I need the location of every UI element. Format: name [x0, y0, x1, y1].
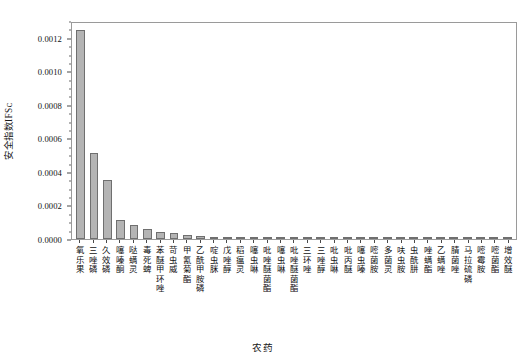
bar — [409, 237, 418, 239]
x-tick-mark — [468, 240, 469, 243]
x-tick-label: 久效磷 — [101, 246, 111, 320]
x-label-slot: 稻瘟灵 — [234, 246, 247, 320]
y-tick-label: 0.0012 — [38, 34, 62, 44]
x-tick-mark — [374, 240, 375, 243]
x-label-slot: 吡丙醚 — [341, 246, 354, 320]
x-label-slot: 啶虫脒 — [207, 246, 220, 320]
x-label-slot: 吡唑醚菌酯 — [287, 246, 300, 320]
x-tick-label: 乙螨唑 — [436, 246, 446, 320]
x-label-slot: 甲氰菊酯 — [180, 246, 193, 320]
bar-slot — [287, 23, 300, 239]
bar-slot — [154, 23, 167, 239]
bar — [489, 237, 498, 239]
bar — [369, 237, 378, 239]
x-tick-slot — [207, 240, 220, 244]
bar-slot — [101, 23, 114, 239]
x-tick-label: 噻虫嗪 — [356, 246, 366, 320]
bar-slot — [327, 23, 340, 239]
x-tick-label: 唑螨酯 — [423, 246, 433, 320]
x-tick-label: 吡唑醚菌酯 — [289, 246, 299, 320]
bar-slot — [221, 23, 234, 239]
bar — [76, 30, 85, 239]
x-tick-mark — [307, 240, 308, 243]
bar-slot — [407, 23, 420, 239]
bar-slot — [261, 23, 274, 239]
x-tick-label: 嘧菌胺 — [369, 246, 379, 320]
bar-slot — [141, 23, 154, 239]
x-tick-slot — [167, 240, 180, 244]
bar — [250, 237, 259, 239]
x-tick-mark — [133, 240, 134, 243]
bar-slot — [127, 23, 140, 239]
bar — [276, 237, 285, 239]
x-tick-mark — [186, 240, 187, 243]
x-tick-slot — [488, 240, 501, 244]
x-tick-slot — [234, 240, 247, 244]
x-tick-slot — [327, 240, 340, 244]
bar — [90, 153, 99, 239]
x-tick-mark — [119, 240, 120, 243]
bar-slot — [114, 23, 127, 239]
x-tick-label: 噻虫啉 — [276, 246, 286, 320]
x-label-slot: 呋虫胺 — [394, 246, 407, 320]
x-tick-mark — [79, 240, 80, 243]
x-label-slot: 吡唑醚菌酯 — [260, 246, 273, 320]
bar — [343, 237, 352, 239]
bar-slot — [74, 23, 87, 239]
x-tick-slot — [408, 240, 421, 244]
bar — [236, 237, 245, 239]
x-tick-slot — [314, 240, 327, 244]
x-tick-slot — [461, 240, 474, 244]
bar-slot — [461, 23, 474, 239]
x-tick-mark — [280, 240, 281, 243]
x-tick-label: 呋虫胺 — [396, 246, 406, 320]
x-tick-slot — [127, 240, 140, 244]
x-tick-mark — [200, 240, 201, 243]
bar-slot — [194, 23, 207, 239]
bar-slot — [487, 23, 500, 239]
x-axis-title: 农药 — [0, 340, 526, 354]
bar-slot — [421, 23, 434, 239]
x-tick-mark — [173, 240, 174, 243]
x-tick-slot — [220, 240, 233, 244]
bar — [303, 237, 312, 239]
x-tick-mark — [494, 240, 495, 243]
x-tick-slot — [381, 240, 394, 244]
x-tick-label: 乙酰甲胺磷 — [195, 246, 205, 320]
x-tick-mark — [293, 240, 294, 243]
x-axis-ticks — [71, 240, 517, 244]
bar — [383, 237, 392, 239]
x-tick-label: 多菌灵 — [383, 246, 393, 320]
bar — [183, 235, 192, 239]
x-tick-mark — [454, 240, 455, 243]
chart-container: 0.00000.00020.00040.00060.00080.00100.00… — [0, 0, 526, 362]
x-tick-label: 虫酰肼 — [409, 246, 419, 320]
x-label-slot: 噻嗪酮 — [113, 246, 126, 320]
bar — [449, 237, 458, 239]
x-tick-label: 吡唑醚菌酯 — [262, 246, 272, 320]
bar — [463, 237, 472, 239]
x-tick-slot — [421, 240, 434, 244]
bar — [436, 237, 445, 239]
x-tick-label: 啶虫脒 — [209, 246, 219, 320]
bar — [103, 180, 112, 239]
bar-slot — [181, 23, 194, 239]
x-tick-label: 苯醚甲环唑 — [155, 246, 165, 320]
x-label-slot: 三唑醇 — [314, 246, 327, 320]
x-tick-label: 稻瘟灵 — [235, 246, 245, 320]
bar-slot — [434, 23, 447, 239]
x-tick-label: 甲氰菊酯 — [182, 246, 192, 320]
bar — [290, 237, 299, 239]
x-tick-slot — [260, 240, 273, 244]
bar-slot — [87, 23, 100, 239]
x-tick-slot — [194, 240, 207, 244]
x-tick-mark — [334, 240, 335, 243]
x-tick-mark — [481, 240, 482, 243]
bar — [170, 233, 179, 239]
x-tick-label: 噻虫啉 — [249, 246, 259, 320]
x-label-slot: 哒螨灵 — [127, 246, 140, 320]
bar-slot — [274, 23, 287, 239]
x-label-slot: 吡虫啉 — [327, 246, 340, 320]
x-tick-slot — [274, 240, 287, 244]
x-tick-mark — [213, 240, 214, 243]
